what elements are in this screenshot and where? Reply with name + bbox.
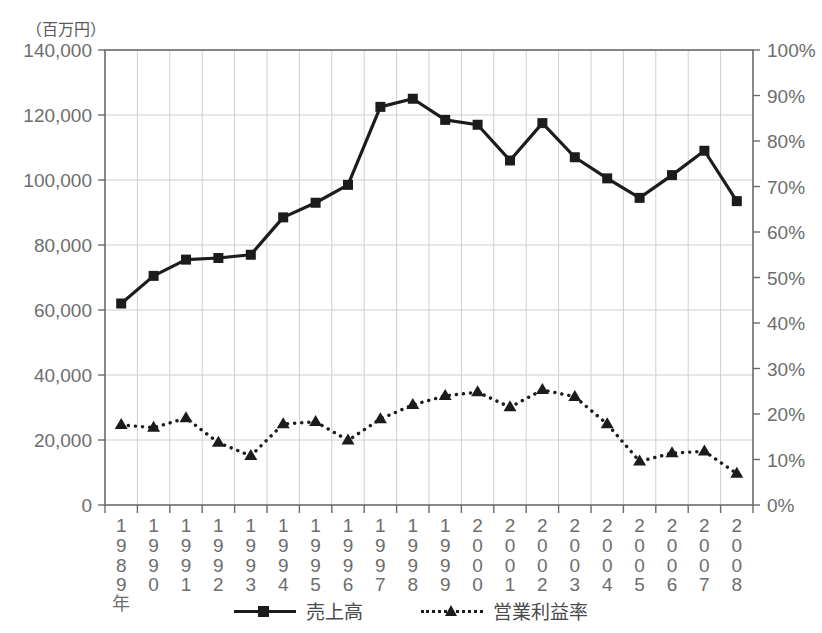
legend-label-sales: 売上高 <box>306 597 363 624</box>
data-point-marker <box>311 198 321 208</box>
data-point-marker <box>375 102 385 112</box>
x-axis-label-2005: 2005 <box>627 516 653 595</box>
x-axis-label-1996: 1996 <box>335 516 361 595</box>
y-axis-tick-label: 100,000 <box>23 170 92 191</box>
y-axis-secondary-tick-label: 60% <box>767 222 805 243</box>
y-axis-tick-label: 120,000 <box>23 105 92 126</box>
gridlines <box>105 50 753 505</box>
legend-marker-triangle-icon <box>421 603 483 619</box>
y-axis-secondary-tick-label: 70% <box>767 177 805 198</box>
data-point-marker <box>504 400 517 411</box>
data-point-marker <box>374 412 387 423</box>
x-axis-label-2008: 2008 <box>724 516 750 595</box>
x-axis-label-2006: 2006 <box>659 516 685 595</box>
x-axis-label-2001: 2001 <box>497 516 523 595</box>
data-point-marker <box>471 385 484 396</box>
data-point-marker <box>408 94 418 104</box>
y-axis-secondary-tick-label: 10% <box>767 450 805 471</box>
data-point-marker <box>149 271 159 281</box>
x-axis-label-1998: 1998 <box>400 516 426 595</box>
y-axis-secondary-tick-label: 0% <box>767 495 795 516</box>
data-point-marker <box>116 299 126 309</box>
data-point-marker <box>667 170 677 180</box>
data-point-marker <box>213 253 223 263</box>
y-axis-tick-label: 80,000 <box>34 235 92 256</box>
data-point-marker <box>570 152 580 162</box>
legend-label-operating-margin: 営業利益率 <box>493 597 588 624</box>
data-point-marker <box>309 415 322 426</box>
legend-item-sales[interactable]: 売上高 <box>234 597 363 624</box>
chart-container: （百万円） 020,00040,00060,00080,000100,00012… <box>0 0 822 633</box>
y-axis-secondary-tick-label: 100% <box>767 40 816 61</box>
x-axis-label-1999: 1999 <box>432 516 458 595</box>
y-axis-right-ticks: 0%10%20%30%40%50%60%70%80%90%100% <box>767 40 816 516</box>
x-axis-label-1997: 1997 <box>367 516 393 595</box>
data-point-marker <box>536 383 549 394</box>
data-point-marker <box>343 180 353 190</box>
x-axis-label-1991: 1991 <box>173 516 199 595</box>
data-point-marker <box>698 444 711 455</box>
data-point-marker <box>635 193 645 203</box>
data-point-marker <box>732 196 742 206</box>
y-axis-secondary-tick-label: 80% <box>767 131 805 152</box>
y-axis-secondary-tick-label: 40% <box>767 313 805 334</box>
x-axis-label-1990: 1990 <box>141 516 167 595</box>
x-axis-label-2007: 2007 <box>691 516 717 595</box>
y-axis-secondary-tick-label: 30% <box>767 359 805 380</box>
y-axis-tick-label: 140,000 <box>23 40 92 61</box>
data-point-marker <box>181 255 191 265</box>
y-axis-tick-label: 20,000 <box>34 430 92 451</box>
x-axis-label-2000: 2000 <box>465 516 491 595</box>
data-point-marker <box>115 418 128 429</box>
data-point-marker <box>537 118 547 128</box>
data-point-marker <box>602 173 612 183</box>
y-axis-secondary-tick-label: 90% <box>767 86 805 107</box>
data-point-marker <box>278 212 288 222</box>
x-axis-label-2003: 2003 <box>562 516 588 595</box>
chart-legend: 売上高 営業利益率 <box>0 597 822 624</box>
y-axis-secondary-tick-label: 20% <box>767 404 805 425</box>
y-axis-left-ticks: 020,00040,00060,00080,000100,000120,0001… <box>23 40 92 516</box>
x-axis-label-2004: 2004 <box>594 516 620 595</box>
y-axis-secondary-tick-label: 50% <box>767 268 805 289</box>
x-axis-label-1992: 1992 <box>205 516 231 595</box>
legend-item-operating-margin[interactable]: 営業利益率 <box>421 597 588 624</box>
y-axis-tick-label: 60,000 <box>34 300 92 321</box>
data-point-marker <box>246 250 256 260</box>
data-point-marker <box>406 398 419 409</box>
x-axis-label-1995: 1995 <box>303 516 329 595</box>
legend-marker-square-icon <box>234 603 296 619</box>
x-axis-label-1993: 1993 <box>238 516 264 595</box>
x-axis-label-2002: 2002 <box>529 516 555 595</box>
data-point-marker <box>180 411 193 422</box>
data-point-marker <box>440 115 450 125</box>
data-point-marker <box>505 156 515 166</box>
y-axis-tick-label: 0 <box>81 495 92 516</box>
data-point-marker <box>473 120 483 130</box>
x-axis-label-1994: 1994 <box>270 516 296 595</box>
data-point-marker <box>699 146 709 156</box>
y-axis-tick-label: 40,000 <box>34 365 92 386</box>
